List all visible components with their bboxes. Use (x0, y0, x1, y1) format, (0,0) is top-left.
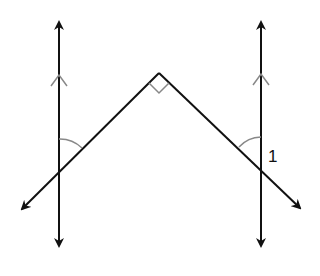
right-angle-arc-icon (239, 137, 261, 147)
angle-1-label: 1 (268, 147, 277, 167)
right-angle-mark-icon (149, 83, 169, 93)
left-transversal (22, 73, 159, 209)
geometry-diagram (0, 0, 320, 276)
right-transversal (159, 73, 300, 208)
left-angle-arc-icon (59, 139, 82, 148)
